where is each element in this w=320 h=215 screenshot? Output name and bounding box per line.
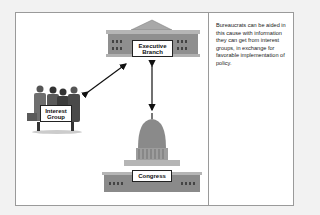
executive-label-line1: Executive	[133, 43, 172, 49]
interest-label-line1: Interest	[41, 108, 71, 114]
congress-label-text: Congress	[133, 173, 171, 179]
executive-label-line2: Branch	[133, 49, 172, 55]
arrow-interest-executive	[88, 64, 126, 92]
executive-branch-label: Executive Branch	[132, 40, 173, 57]
congress-label: Congress	[132, 170, 172, 182]
interest-label-line2: Group	[41, 114, 71, 120]
caption-text: Bureaucrats can be aided in this cause w…	[216, 22, 290, 68]
interest-group-label: Interest Group	[40, 105, 72, 122]
